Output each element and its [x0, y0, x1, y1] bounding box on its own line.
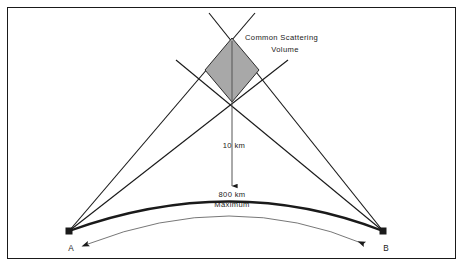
height-label: 10 km [223, 141, 245, 150]
station-a-label: A [68, 244, 74, 253]
distance-span-arc [88, 216, 364, 244]
distance-label-line1: 800 km [218, 190, 245, 199]
station-b-marker[interactable] [380, 228, 387, 235]
station-a-marker[interactable] [66, 228, 73, 235]
scattering-volume-label-line1: Common Scattering [245, 33, 318, 42]
scattering-volume-label-line2: Volume [271, 45, 298, 54]
distance-label-line2: Maximum [214, 200, 249, 209]
station-b-label: B [383, 244, 389, 253]
figure-root: Common Scattering Volume 10 km 800 km Ma… [0, 0, 464, 267]
scatter-geometry-diagram: Common Scattering Volume 10 km 800 km Ma… [0, 0, 464, 267]
beam-cone-station-a [69, 13, 288, 231]
